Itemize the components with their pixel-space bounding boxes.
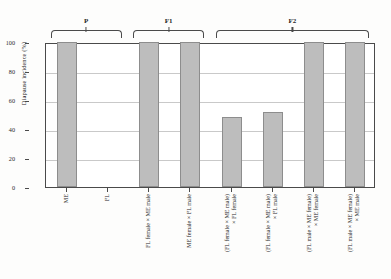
x-tick-label-line2: × ME male: [354, 194, 361, 252]
bar[interactable]: [139, 42, 159, 187]
x-tick-label: (FL female × ME male)× FL male: [265, 194, 279, 278]
bar-slot: [170, 44, 211, 187]
plot-area: [45, 43, 375, 188]
x-tick-mark: [189, 188, 190, 192]
x-tick-label-line1: (FL female × ME male): [265, 194, 271, 252]
x-tick-mark: [107, 188, 108, 192]
bar-slot: [252, 44, 293, 187]
bar-slot: [211, 44, 252, 187]
x-tick-label-line1: ME: [62, 194, 68, 203]
x-tick-label: FL: [100, 194, 114, 278]
bar[interactable]: [304, 42, 324, 187]
y-tick-mark: [25, 101, 29, 102]
x-tick-mark: [66, 188, 67, 192]
y-tick-label: 100: [6, 40, 15, 46]
bar-slot: [87, 44, 128, 187]
x-tick-label-line1: FL female × ME male: [145, 194, 151, 248]
y-tick-mark: [25, 72, 29, 73]
chart-figure: Diapause incidence (%) 020406080100 PF1F…: [0, 0, 391, 279]
x-tick-label-line2: × FL female: [231, 194, 238, 252]
x-tick-mark: [148, 188, 149, 192]
x-tick-label-line1: (FL male × ME female): [306, 194, 312, 252]
x-tick-label: ME: [59, 194, 73, 278]
x-tick-mark: [313, 188, 314, 192]
group-bracket-label: F2: [216, 17, 369, 25]
bracket-nub: [292, 27, 293, 32]
bar-slot: [46, 44, 87, 187]
x-tick-label-line1: FL: [103, 194, 109, 201]
y-tick-mark: [25, 130, 29, 131]
x-tick-label: (FL male × ME female)× ME female: [306, 194, 320, 278]
group-bracket-label: P: [51, 17, 122, 25]
bar[interactable]: [345, 42, 365, 187]
y-tick-mark: [25, 43, 29, 44]
x-tick-mark: [354, 188, 355, 192]
x-tick-label-line2: × ME female: [313, 194, 320, 252]
bars-layer: [46, 44, 374, 187]
x-tick-label-line1: (FL male × ME female): [347, 194, 353, 252]
x-tick-label: ME female × FL male: [182, 194, 196, 278]
bar[interactable]: [180, 42, 200, 187]
x-tick-label-line1: (FL female × ME male): [224, 194, 230, 252]
y-tick-mark: [25, 188, 29, 189]
x-tick-label: FL female × ME male: [141, 194, 155, 278]
x-tick-label-line2: × FL male: [272, 194, 279, 252]
bar-slot: [129, 44, 170, 187]
y-axis-title: Diapause incidence (%): [20, 0, 27, 149]
x-tick-mark: [231, 188, 232, 192]
x-tick-label-line1: ME female × FL male: [186, 194, 192, 248]
bar[interactable]: [57, 42, 77, 187]
y-tick-label: 80: [9, 69, 15, 75]
x-tick-label: (FL female × ME male)× FL female: [224, 194, 238, 278]
group-bracket-label: F1: [133, 17, 204, 25]
bracket-nub: [86, 27, 87, 32]
y-tick-label: 40: [9, 127, 15, 133]
bar-slot: [335, 44, 376, 187]
group-bracket: [133, 30, 204, 38]
y-tick-label: 20: [9, 156, 15, 162]
y-axis: Diapause incidence (%) 020406080100: [0, 0, 45, 279]
bar-slot: [294, 44, 335, 187]
bar[interactable]: [263, 112, 283, 187]
group-bracket: [216, 30, 369, 38]
x-tick-label: (FL male × ME female)× ME male: [347, 194, 361, 278]
bar[interactable]: [222, 117, 242, 187]
y-tick-mark: [25, 159, 29, 160]
y-tick-label: 0: [12, 185, 15, 191]
x-tick-mark: [272, 188, 273, 192]
bracket-nub: [168, 27, 169, 32]
y-tick-label: 60: [9, 98, 15, 104]
group-bracket: [51, 30, 122, 38]
